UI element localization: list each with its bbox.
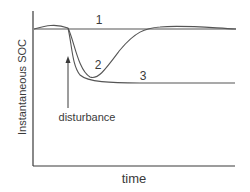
disturbance-arrow-head-icon	[66, 56, 71, 63]
curve-2	[68, 26, 236, 77]
curve-3	[68, 28, 235, 83]
disturbance-label: disturbance	[59, 111, 116, 123]
initial-bump	[34, 25, 68, 29]
y-axis-label: Instantaneous SOC	[16, 39, 28, 135]
x-axis-label: time	[122, 171, 147, 186]
chart-svg: 1 2 3 disturbance time Instantaneous SOC	[0, 0, 250, 192]
curve-3-label: 3	[140, 69, 147, 83]
curve-2-label: 2	[95, 58, 102, 72]
curve-1-label: 1	[96, 13, 103, 27]
